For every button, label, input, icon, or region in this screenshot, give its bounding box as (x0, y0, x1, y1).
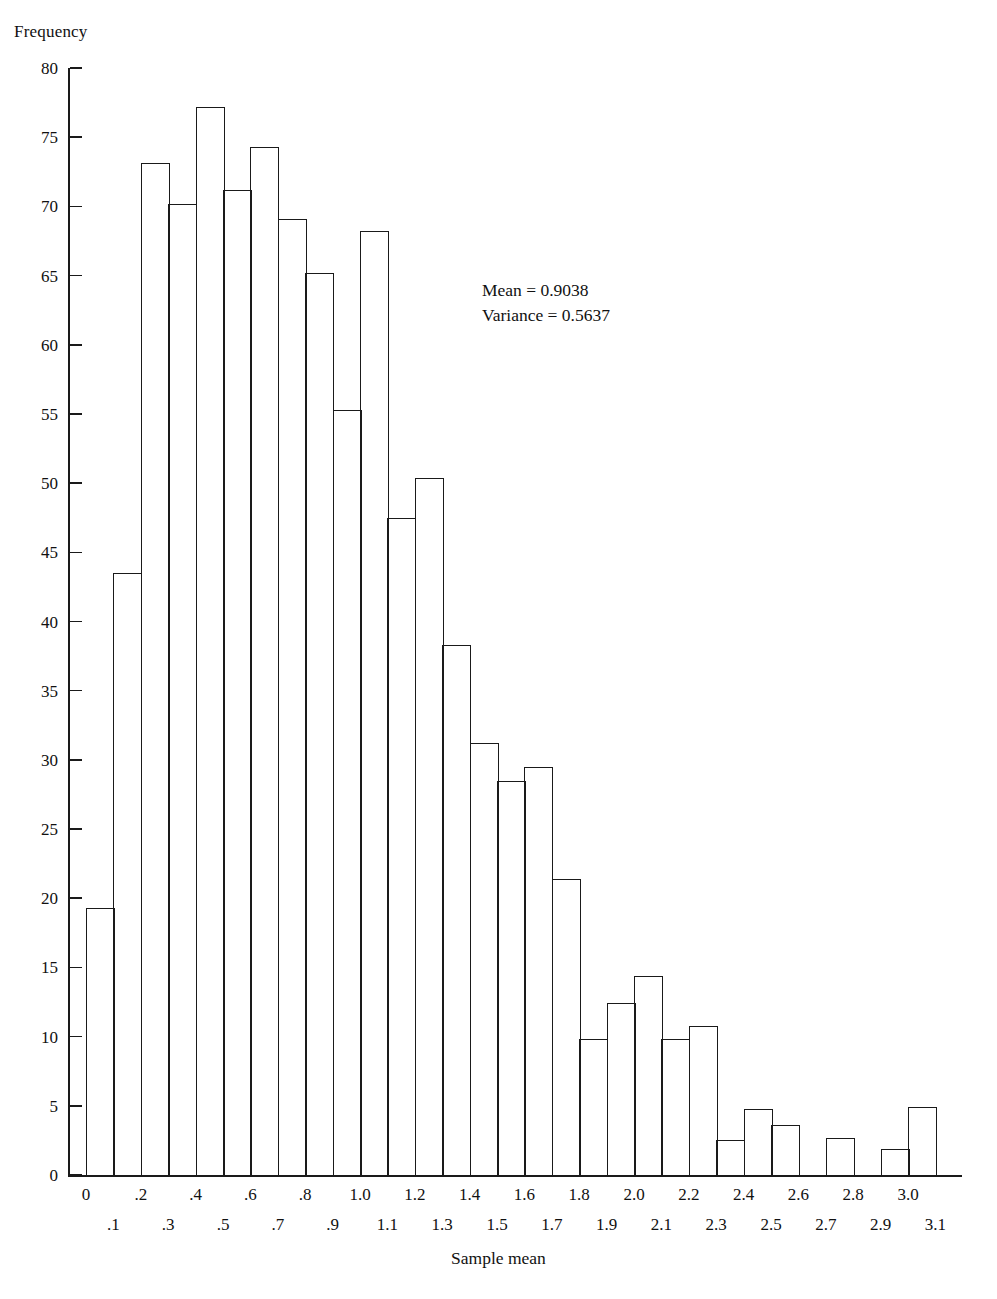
y-tick (70, 759, 82, 761)
y-tick (70, 344, 82, 346)
x-tick-label: 2.0 (623, 1186, 644, 1203)
x-tick-label: 1.2 (404, 1186, 425, 1203)
histogram-bar (196, 107, 225, 1175)
x-tick-label: 2.8 (843, 1186, 864, 1203)
y-tick-label: 75 (14, 129, 58, 146)
x-tick-label: .8 (299, 1186, 312, 1203)
y-tick-label: 0 (14, 1167, 58, 1184)
plot-area: 05101520253035404550556065707580 0.1.2.3… (68, 60, 968, 1190)
y-axis-title: Frequency (14, 22, 88, 42)
histogram-bar (661, 1039, 690, 1175)
histogram-bar (442, 645, 471, 1175)
x-tick-label: 1.7 (541, 1216, 562, 1233)
x-tick-label: .5 (217, 1216, 230, 1233)
statistics-annotation: Mean = 0.9038 Variance = 0.5637 (482, 278, 610, 329)
histogram-bar (113, 573, 142, 1175)
y-tick (70, 690, 82, 692)
histogram-bar (415, 478, 444, 1175)
x-tick-label: 1.1 (377, 1216, 398, 1233)
x-tick-label: .1 (107, 1216, 120, 1233)
x-tick-label: .3 (162, 1216, 175, 1233)
x-tick-label: 1.9 (596, 1216, 617, 1233)
histogram-bar (497, 781, 526, 1175)
histogram-bar (360, 231, 389, 1175)
x-axis-title: Sample mean (0, 1248, 997, 1269)
y-axis-tick-labels: 05101520253035404550556065707580 (10, 60, 58, 1190)
x-tick-label: 2.9 (870, 1216, 891, 1233)
y-tick-label: 80 (14, 60, 58, 77)
histogram-bar (524, 767, 553, 1175)
y-tick (70, 413, 82, 415)
x-tick-label: 2.7 (815, 1216, 836, 1233)
y-tick (70, 552, 82, 554)
y-tick (70, 482, 82, 484)
y-tick-label: 5 (14, 1097, 58, 1114)
x-tick-label: 2.5 (760, 1216, 781, 1233)
y-tick (70, 136, 82, 138)
y-tick-label: 60 (14, 336, 58, 353)
x-tick-label: 1.6 (514, 1186, 535, 1203)
histogram-bar (387, 518, 416, 1175)
y-tick-label: 30 (14, 751, 58, 768)
y-tick-label: 40 (14, 613, 58, 630)
histogram-bar (607, 1003, 636, 1175)
y-tick-label: 65 (14, 267, 58, 284)
x-tick-label: 1.8 (569, 1186, 590, 1203)
histogram-bar (223, 190, 252, 1175)
y-tick (70, 1105, 82, 1107)
histogram-bar (305, 273, 334, 1175)
histogram-bar (716, 1140, 745, 1175)
y-tick (70, 1036, 82, 1038)
histogram-bar (744, 1109, 773, 1175)
histogram-bar (333, 410, 362, 1175)
histogram-bar (250, 147, 279, 1175)
y-tick-label: 20 (14, 890, 58, 907)
x-tick-label: 1.5 (486, 1216, 507, 1233)
x-tick-label: 2.4 (733, 1186, 754, 1203)
histogram-bar (881, 1149, 910, 1175)
histogram-bar (168, 204, 197, 1175)
x-axis-line (68, 1175, 962, 1177)
histogram-bar (552, 879, 581, 1175)
y-tick-label: 15 (14, 959, 58, 976)
histogram-bar (689, 1026, 718, 1175)
mean-annotation: Mean = 0.9038 (482, 278, 610, 303)
x-tick-label: 2.1 (651, 1216, 672, 1233)
x-tick-label: .7 (271, 1216, 284, 1233)
x-tick-label: 3.0 (897, 1186, 918, 1203)
y-tick (70, 621, 82, 623)
x-tick-label: 1.0 (349, 1186, 370, 1203)
x-tick-label: 2.6 (788, 1186, 809, 1203)
histogram-bar (141, 163, 170, 1175)
y-tick-label: 70 (14, 198, 58, 215)
x-tick-label: 3.1 (925, 1216, 946, 1233)
histogram-bar (634, 976, 663, 1175)
histogram-bar (771, 1125, 800, 1175)
histogram-bar (86, 908, 115, 1175)
y-tick-label: 50 (14, 475, 58, 492)
x-tick-label: .2 (134, 1186, 147, 1203)
x-tick-label: .4 (189, 1186, 202, 1203)
histogram-bar (826, 1138, 855, 1175)
y-tick (70, 828, 82, 830)
variance-annotation: Variance = 0.5637 (482, 303, 610, 328)
y-tick (70, 897, 82, 899)
histogram-bar (579, 1039, 608, 1175)
x-tick-label: 2.2 (678, 1186, 699, 1203)
y-tick-label: 35 (14, 682, 58, 699)
histogram-bar (470, 743, 499, 1175)
y-tick (70, 1174, 82, 1176)
histogram-figure: Frequency 051015202530354045505560657075… (0, 0, 997, 1299)
histogram-bar (278, 219, 307, 1175)
x-tick-label: 0 (82, 1186, 91, 1203)
y-tick-label: 45 (14, 544, 58, 561)
y-tick (70, 967, 82, 969)
x-tick-label: .9 (326, 1216, 339, 1233)
y-tick-label: 55 (14, 405, 58, 422)
y-tick (70, 67, 82, 69)
y-tick-label: 25 (14, 821, 58, 838)
y-tick-label: 10 (14, 1028, 58, 1045)
x-tick-label: .6 (244, 1186, 257, 1203)
histogram-bar (908, 1107, 937, 1175)
x-tick-label: 1.3 (432, 1216, 453, 1233)
